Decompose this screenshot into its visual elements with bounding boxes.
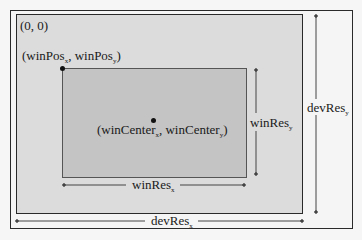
dimension-arrows	[0, 0, 362, 240]
dev-res-y-label: devResy	[307, 101, 349, 117]
win-res-x-label: winResx	[132, 178, 175, 194]
win-center-close: )	[223, 122, 227, 137]
win-pos-y-text: , winPos	[68, 48, 113, 63]
win-center-y-text: , winCenter	[159, 122, 220, 137]
win-res-y-label: winResy	[250, 116, 293, 132]
dev-res-y-sub: y	[345, 109, 349, 117]
win-pos-x-text: (winPos	[22, 48, 65, 63]
win-pos-close: )	[116, 48, 120, 63]
win-res-x-text: winRes	[132, 177, 171, 192]
win-res-x-sub: x	[171, 186, 175, 194]
dev-res-x-sub: x	[189, 222, 193, 230]
win-pos-label: (winPosx, winPosy)	[22, 49, 121, 65]
dev-res-x-text: devRes	[151, 213, 189, 228]
win-center-label: (winCenterx, winCentery)	[97, 123, 227, 139]
origin-label: (0, 0)	[20, 19, 48, 32]
win-res-y-text: winRes	[250, 115, 289, 130]
win-res-y-sub: y	[289, 124, 293, 132]
win-center-x-text: (winCenter	[97, 122, 155, 137]
win-pos-point-icon	[60, 66, 65, 71]
dev-res-y-text: devRes	[307, 100, 345, 115]
dev-res-x-label: devResx	[151, 214, 193, 230]
